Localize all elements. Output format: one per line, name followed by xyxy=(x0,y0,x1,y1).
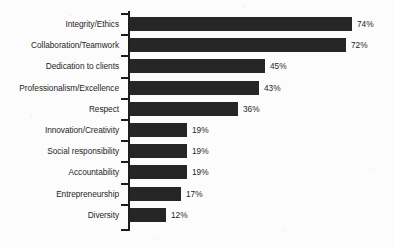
category-label: Integrity/Ethics xyxy=(65,14,119,35)
bar xyxy=(130,208,166,222)
bar-chart: Integrity/Ethics74%Collaboration/Teamwor… xyxy=(0,0,393,248)
bar xyxy=(130,144,187,158)
category-label: Dedication to clients xyxy=(46,56,119,77)
plot-area: Integrity/Ethics74%Collaboration/Teamwor… xyxy=(0,0,393,248)
bar-value-label: 43% xyxy=(264,80,281,96)
bar-value-label: 72% xyxy=(351,37,368,53)
bar-value-label: 12% xyxy=(171,207,188,223)
bar-value-label: 19% xyxy=(192,122,209,138)
bar-value-label: 19% xyxy=(192,143,209,159)
category-label: Social responsibility xyxy=(47,141,119,162)
category-label: Collaboration/Teamwork xyxy=(31,35,119,56)
bar-row: Respect36% xyxy=(0,99,393,120)
bar xyxy=(130,81,259,95)
bar-row: Social responsibility19% xyxy=(0,141,393,162)
category-label: Respect xyxy=(89,99,119,120)
axis-tick xyxy=(121,161,129,163)
bar xyxy=(130,59,265,73)
bar xyxy=(130,17,352,31)
axis-tick xyxy=(121,98,129,100)
axis-tick xyxy=(121,140,129,142)
bar xyxy=(130,187,181,201)
bar-row: Dedication to clients45% xyxy=(0,56,393,77)
category-label: Entrepreneurship xyxy=(56,184,119,205)
category-label: Innovation/Creativity xyxy=(45,120,119,141)
axis-tick xyxy=(121,204,129,206)
bar-row: Accountability19% xyxy=(0,162,393,183)
category-label: Accountability xyxy=(69,162,120,183)
axis-tick xyxy=(121,119,129,121)
axis-tick xyxy=(121,34,129,36)
bar-row: Diversity12% xyxy=(0,205,393,226)
axis-tick xyxy=(121,183,129,185)
bar-value-label: 17% xyxy=(186,186,203,202)
bar xyxy=(130,102,238,116)
category-label: Professionalism/Excellence xyxy=(19,78,119,99)
bar xyxy=(130,38,346,52)
bar-row: Entrepreneurship17% xyxy=(0,184,393,205)
axis-tick xyxy=(121,55,129,57)
axis-bottom-tick xyxy=(121,229,129,231)
axis-tick xyxy=(121,13,129,15)
bar-row: Collaboration/Teamwork72% xyxy=(0,35,393,56)
bar-value-label: 36% xyxy=(243,101,260,117)
bar-row: Innovation/Creativity19% xyxy=(0,120,393,141)
bar-value-label: 45% xyxy=(270,58,287,74)
axis-tick xyxy=(121,77,129,79)
bar-value-label: 74% xyxy=(357,16,374,32)
bar xyxy=(130,123,187,137)
bar xyxy=(130,165,187,179)
bar-value-label: 19% xyxy=(192,164,209,180)
bar-row: Integrity/Ethics74% xyxy=(0,14,393,35)
bar-row: Professionalism/Excellence43% xyxy=(0,78,393,99)
category-label: Diversity xyxy=(88,205,119,226)
